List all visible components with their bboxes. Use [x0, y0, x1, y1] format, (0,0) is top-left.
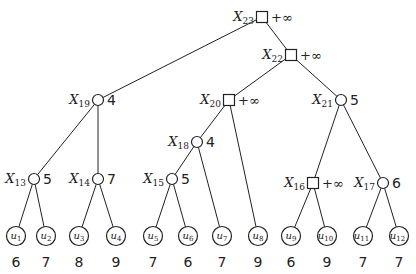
node-x23: X23+∞ [232, 9, 292, 26]
leaf-value: 8 [75, 254, 84, 270]
leaf-u5: u57 [144, 227, 163, 271]
edge-X15-u6 [173, 184, 185, 227]
leaf-u7: u77 [213, 227, 232, 271]
node-label: X18 [167, 134, 189, 151]
leaf-value: 7 [359, 254, 368, 270]
node-x15: X155 [142, 171, 190, 188]
leaf-u9: u96 [282, 227, 301, 271]
edge-X16-u9 [295, 188, 311, 227]
leaf-value: 7 [218, 254, 227, 270]
leaf-value: 9 [254, 254, 263, 270]
edge-X19-X13 [37, 104, 94, 174]
edge-X22-X21 [295, 59, 337, 97]
node-value: +∞ [322, 176, 344, 191]
leaf-value: 7 [149, 254, 158, 270]
game-tree-diagram: X23+∞X22+∞X194X20+∞X215X184X135X147X155X… [0, 0, 416, 274]
node-label: X22 [261, 47, 283, 64]
node-x22: X22+∞ [261, 47, 321, 64]
leaf-u10: u109 [318, 227, 337, 271]
leaf-u6: u66 [179, 227, 198, 271]
node-value: +∞ [300, 48, 322, 63]
leaf-u2: u27 [37, 227, 56, 271]
node-value: +∞ [238, 93, 260, 108]
node-x14: X147 [68, 171, 116, 188]
node-value: 6 [392, 175, 401, 191]
node-label: X14 [68, 171, 90, 188]
leaf-value: 6 [184, 254, 193, 270]
circle-node-icon [167, 174, 178, 185]
node-label: X13 [4, 171, 26, 188]
edge-X20-u8 [230, 105, 256, 226]
node-value: 4 [107, 92, 116, 108]
leaf-u11: u117 [354, 227, 373, 271]
tree-edges [19, 19, 396, 227]
leaf-value: 6 [287, 254, 296, 270]
leaf-value: 7 [42, 254, 51, 270]
edge-X14-u3 [82, 184, 96, 227]
node-label: X15 [142, 171, 164, 188]
node-label: X17 [353, 175, 375, 192]
edge-X16-u10 [314, 188, 324, 226]
node-label: X16 [283, 175, 305, 192]
node-label: X20 [199, 92, 221, 109]
edge-X17-u12 [385, 188, 397, 227]
leaf-value: 9 [112, 254, 121, 270]
node-value: +∞ [271, 10, 293, 25]
node-x18: X184 [167, 134, 215, 151]
circle-node-icon [378, 178, 389, 189]
edge-X13-u1 [19, 184, 32, 227]
edge-X23-X19 [103, 19, 257, 97]
node-value: 5 [43, 171, 52, 187]
node-label: X23 [232, 9, 254, 26]
edge-X21-X16 [315, 105, 339, 178]
edge-X13-u2 [35, 184, 44, 226]
node-value: 7 [107, 171, 116, 187]
circle-node-icon [93, 174, 104, 185]
edge-X17-u11 [366, 188, 381, 227]
circle-node-icon [336, 95, 347, 106]
edge-X15-u5 [156, 184, 170, 227]
node-x16: X16+∞ [283, 175, 343, 192]
node-x20: X20+∞ [199, 92, 259, 109]
leaf-u4: u49 [107, 227, 126, 271]
circle-node-icon [93, 95, 104, 106]
square-node-icon [308, 178, 319, 189]
square-node-icon [286, 50, 297, 61]
node-label: X19 [68, 92, 90, 109]
edge-X20-X18 [200, 104, 225, 137]
node-value: 5 [350, 92, 359, 108]
leaf-value: 7 [395, 254, 404, 270]
leaf-value: 9 [323, 254, 332, 270]
leaf-u12: u127 [390, 227, 409, 271]
edge-X14-u4 [100, 184, 113, 227]
leaf-u8: u89 [249, 227, 268, 271]
node-label: X21 [311, 92, 333, 109]
edge-X18-u7 [198, 147, 219, 227]
tree-leaves: u16u27u38u49u57u66u77u89u96u109u117u127 [7, 227, 409, 271]
circle-node-icon [29, 174, 40, 185]
node-x17: X176 [353, 175, 401, 192]
node-value: 4 [206, 134, 215, 150]
edge-X21-X17 [343, 105, 380, 178]
node-value: 5 [181, 171, 190, 187]
leaf-value: 6 [12, 254, 21, 270]
square-node-icon [224, 95, 235, 106]
leaf-u1: u16 [7, 227, 26, 271]
node-x13: X135 [4, 171, 52, 188]
square-node-icon [257, 12, 268, 23]
leaf-u3: u38 [70, 227, 89, 271]
circle-node-icon [192, 137, 203, 148]
edge-X22-X20 [233, 58, 286, 97]
